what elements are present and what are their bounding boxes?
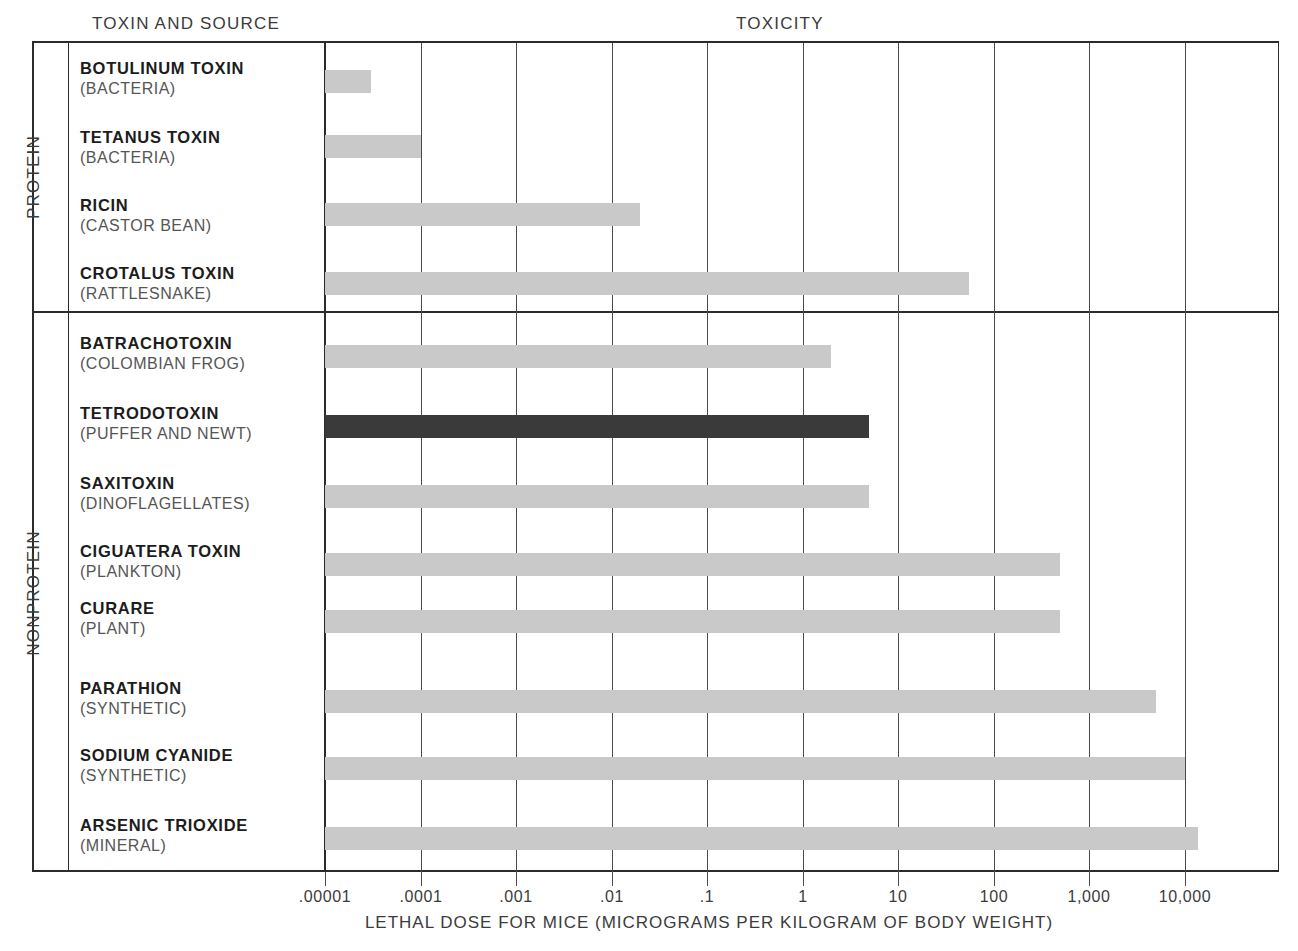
group-label-protein-text: PROTEIN	[24, 135, 44, 219]
toxin-name: SODIUM CYANIDE	[80, 745, 320, 765]
axis-tick-0	[325, 872, 326, 886]
toxin-name: BOTULINUM TOXIN	[80, 58, 320, 78]
toxin-name: CROTALUS TOXIN	[80, 263, 320, 283]
axis-tick-6	[898, 872, 899, 886]
bar	[325, 415, 869, 438]
axis-tick-1	[421, 872, 422, 886]
bar	[325, 485, 869, 508]
toxin-source: (RATTLESNAKE)	[80, 283, 320, 304]
toxin-source: (MINERAL)	[80, 835, 320, 856]
bar	[325, 70, 371, 93]
gridline-10000	[1185, 43, 1186, 872]
protein-nonprotein-divider	[32, 311, 1279, 313]
axis-tick-label-2: .001	[499, 888, 533, 906]
bar	[325, 203, 640, 226]
toxin-name: RICIN	[80, 195, 320, 215]
gridline-1000	[1089, 43, 1090, 872]
plot-baseline-rule	[324, 41, 326, 872]
row-label: TETANUS TOXIN(BACTERIA)	[80, 127, 320, 168]
toxin-source: (SYNTHETIC)	[80, 765, 320, 786]
axis-tick-label-3: .01	[600, 888, 624, 906]
gridline-001	[516, 43, 517, 872]
axis-tick-label-6: 10	[889, 888, 908, 906]
x-axis-title-text: LETHAL DOSE FOR MICE (MICROGRAMS PER KIL…	[365, 913, 1053, 933]
toxin-source: (PLANKTON)	[80, 561, 320, 582]
bar	[325, 827, 1198, 850]
row-label: PARATHION(SYNTHETIC)	[80, 678, 320, 719]
row-label: BOTULINUM TOXIN(BACTERIA)	[80, 58, 320, 99]
row-label: RICIN(CASTOR BEAN)	[80, 195, 320, 236]
column-heading-toxin: TOXIN AND SOURCE	[92, 14, 280, 34]
toxin-source: (SYNTHETIC)	[80, 698, 320, 719]
gridline-1	[707, 43, 708, 872]
toxin-name: CIGUATERA TOXIN	[80, 541, 320, 561]
chart-page: TOXIN AND SOURCE TOXICITY PROTEIN NONPRO…	[0, 0, 1298, 951]
group-label-protein: PROTEIN	[0, 43, 68, 311]
axis-tick-7	[994, 872, 995, 886]
bar	[325, 690, 1156, 713]
bar	[325, 272, 969, 295]
axis-tick-2	[516, 872, 517, 886]
axis-tick-label-1: .0001	[399, 888, 442, 906]
axis-tick-4	[707, 872, 708, 886]
axis-tick-9	[1185, 872, 1186, 886]
axis-tick-label-4: .1	[700, 888, 715, 906]
row-label: CIGUATERA TOXIN(PLANKTON)	[80, 541, 320, 582]
bar	[325, 345, 831, 368]
toxin-source: (DINOFLAGELLATES)	[80, 493, 320, 514]
bar	[325, 757, 1185, 780]
x-axis-title: LETHAL DOSE FOR MICE (MICROGRAMS PER KIL…	[0, 913, 1298, 933]
gridline-100	[994, 43, 995, 872]
row-label: CURARE(PLANT)	[80, 598, 320, 639]
toxin-name: ARSENIC TRIOXIDE	[80, 815, 320, 835]
bar	[325, 610, 1060, 633]
row-label: BATRACHOTOXIN(COLOMBIAN FROG)	[80, 333, 320, 374]
bar	[325, 135, 421, 158]
toxin-source: (COLOMBIAN FROG)	[80, 353, 320, 374]
toxin-source: (PUFFER AND NEWT)	[80, 423, 320, 444]
toxin-name: BATRACHOTOXIN	[80, 333, 320, 353]
toxin-source: (PLANT)	[80, 618, 320, 639]
axis-tick-label-8: 1,000	[1067, 888, 1110, 906]
row-label: CROTALUS TOXIN(RATTLESNAKE)	[80, 263, 320, 304]
axis-tick-label-9: 10,000	[1159, 888, 1212, 906]
toxin-name: TETRODOTOXIN	[80, 403, 320, 423]
axis-tick-label-5: 1	[798, 888, 808, 906]
toxin-source: (CASTOR BEAN)	[80, 215, 320, 236]
axis-tick-8	[1089, 872, 1090, 886]
gridline-01	[612, 43, 613, 872]
axis-tick-label-7: 100	[980, 888, 1009, 906]
gridline-10	[898, 43, 899, 872]
toxin-name: SAXITOXIN	[80, 473, 320, 493]
group-label-divider	[68, 41, 69, 872]
group-label-nonprotein-text: NONPROTEIN	[24, 530, 44, 655]
axis-tick-3	[612, 872, 613, 886]
row-label: ARSENIC TRIOXIDE(MINERAL)	[80, 815, 320, 856]
row-label: SODIUM CYANIDE(SYNTHETIC)	[80, 745, 320, 786]
column-heading-toxicity: TOXICITY	[736, 14, 824, 34]
group-label-nonprotein: NONPROTEIN	[0, 313, 68, 872]
toxin-name: CURARE	[80, 598, 320, 618]
toxin-source: (BACTERIA)	[80, 78, 320, 99]
axis-tick-label-0: .00001	[299, 888, 352, 906]
gridline-0001	[421, 43, 422, 872]
toxin-name: TETANUS TOXIN	[80, 127, 320, 147]
toxin-source: (BACTERIA)	[80, 147, 320, 168]
axis-tick-5	[803, 872, 804, 886]
row-label: TETRODOTOXIN(PUFFER AND NEWT)	[80, 403, 320, 444]
toxin-name: PARATHION	[80, 678, 320, 698]
row-label: SAXITOXIN(DINOFLAGELLATES)	[80, 473, 320, 514]
bar	[325, 553, 1060, 576]
gridline-1	[803, 43, 804, 872]
